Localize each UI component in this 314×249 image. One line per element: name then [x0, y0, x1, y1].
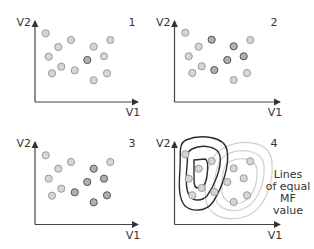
data-point — [107, 36, 114, 43]
data-point — [189, 192, 196, 199]
x-axis-label: V1 — [268, 106, 283, 119]
annotation-line: value — [273, 204, 303, 217]
panel-number: 1 — [129, 16, 136, 29]
data-point-highlighted — [208, 36, 215, 43]
panel-number: 3 — [129, 137, 136, 150]
panel-3: V2V13 — [16, 137, 140, 242]
data-point — [230, 198, 237, 205]
data-point — [67, 36, 74, 43]
data-point — [100, 53, 107, 60]
x-axis-label: V1 — [126, 106, 141, 119]
data-point — [42, 152, 49, 159]
panel-1: V2V11 — [16, 16, 140, 119]
data-point — [198, 63, 205, 70]
data-point — [185, 175, 192, 182]
data-point-highlighted — [90, 165, 97, 172]
data-point — [240, 175, 247, 182]
y-axis-label: V2 — [16, 137, 31, 150]
data-point — [71, 67, 78, 74]
data-point — [45, 175, 52, 182]
contour-dark-inner — [194, 159, 208, 188]
data-point — [189, 69, 196, 76]
y-axis-label: V2 — [16, 16, 31, 29]
data-point-highlighted — [84, 178, 91, 185]
data-point — [185, 53, 192, 60]
data-point — [195, 43, 202, 50]
data-point — [243, 192, 250, 199]
data-point — [103, 70, 110, 77]
data-point — [45, 53, 52, 60]
data-point — [90, 43, 97, 50]
data-point — [247, 158, 254, 165]
data-point-highlighted — [90, 199, 97, 206]
data-point — [195, 165, 202, 172]
data-point — [182, 29, 189, 36]
contour-group-dark — [179, 137, 227, 210]
data-point — [90, 77, 97, 84]
y-axis-label: V2 — [156, 137, 171, 150]
panel-2: V2V12 — [156, 16, 282, 119]
data-point-highlighted — [211, 66, 218, 73]
data-point — [42, 30, 49, 37]
data-point-highlighted — [71, 189, 78, 196]
data-point — [243, 69, 250, 76]
y-axis-label: V2 — [156, 16, 171, 29]
data-point — [198, 184, 205, 191]
clustering-diagram: V2V11V2V12V2V13V2V14Linesof equalMFvalue — [0, 0, 314, 249]
data-point — [208, 157, 215, 164]
data-point — [230, 76, 237, 83]
data-point-highlighted — [84, 56, 91, 63]
data-point — [224, 178, 231, 185]
data-point — [58, 185, 65, 192]
data-point — [55, 43, 62, 50]
data-point-highlighted — [224, 56, 231, 63]
data-point — [182, 151, 189, 158]
data-point-highlighted — [240, 53, 247, 60]
data-point — [230, 165, 237, 172]
panel-number: 2 — [271, 16, 278, 29]
data-point — [247, 36, 254, 43]
data-point — [107, 158, 114, 165]
data-point — [211, 188, 218, 195]
x-axis-label: V1 — [126, 229, 141, 242]
data-point — [48, 192, 55, 199]
data-point — [58, 63, 65, 70]
data-point-highlighted — [230, 43, 237, 50]
panel-number: 4 — [271, 137, 278, 150]
data-point — [55, 165, 62, 172]
data-point — [48, 70, 55, 77]
data-point-highlighted — [103, 192, 110, 199]
data-point — [67, 158, 74, 165]
data-point-highlighted — [100, 175, 107, 182]
x-axis-label: V1 — [268, 229, 283, 242]
